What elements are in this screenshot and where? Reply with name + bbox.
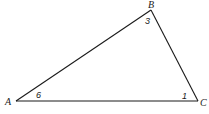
- triangle-diagram: A B C 6 3 1: [0, 0, 209, 114]
- vertex-label-b: B: [148, 0, 154, 10]
- vertex-label-c: C: [200, 97, 207, 108]
- edge-bc: [151, 10, 198, 101]
- angle-label-b: 3: [145, 16, 150, 26]
- vertex-label-a: A: [4, 96, 12, 107]
- edge-ab: [16, 10, 151, 101]
- angle-label-a: 6: [36, 90, 41, 100]
- angle-label-c: 1: [182, 91, 187, 101]
